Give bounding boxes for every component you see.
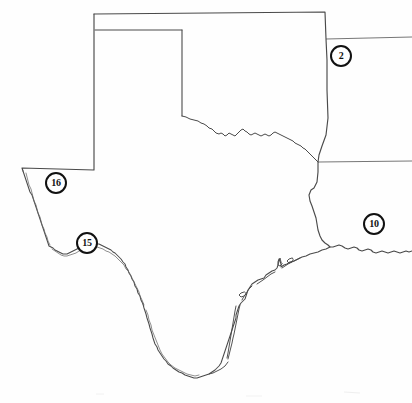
texas-state-outline: [22, 12, 412, 378]
scan-artifacts: [96, 392, 360, 396]
red-river-border: [182, 116, 318, 162]
map-marker-2[interactable]: 2: [330, 45, 352, 67]
eastern-state-line: [318, 161, 412, 162]
barrier-island-matagorda: [257, 272, 275, 284]
map-marker-10[interactable]: 10: [363, 213, 385, 235]
map-marker-16[interactable]: 16: [45, 172, 67, 194]
map-marker-10-label: 10: [369, 219, 378, 229]
rio-grande-secondary-line: [26, 173, 199, 376]
sabine-lake-detail: [287, 258, 293, 263]
map-marker-2-label: 2: [339, 51, 344, 61]
northern-state-line: [326, 37, 412, 39]
corpus-bay-detail: [239, 292, 246, 297]
barrier-island-padre: [228, 305, 240, 359]
map-marker-15[interactable]: 15: [76, 232, 98, 254]
new-mexico-border: [22, 14, 94, 171]
map-marker-15-label: 15: [82, 238, 91, 248]
rio-grande-valley-inner: [146, 310, 199, 376]
barrier-island-upper: [282, 258, 300, 268]
map-marker-16-label: 16: [51, 178, 60, 188]
map-canvas: 2 16 15 10: [0, 0, 412, 403]
gulf-coast-shoreline: [143, 247, 330, 378]
